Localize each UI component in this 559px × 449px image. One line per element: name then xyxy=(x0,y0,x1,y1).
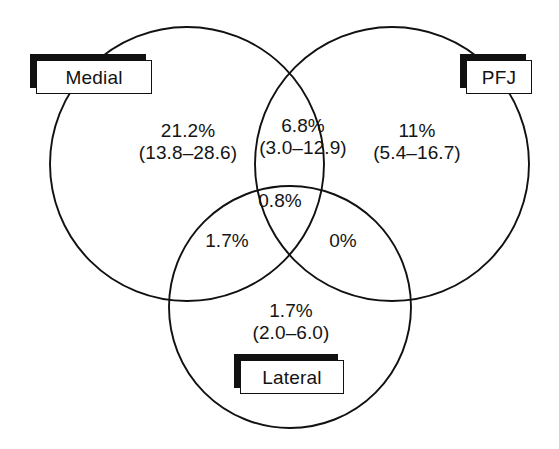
set-label-pfj-text: PFJ xyxy=(482,68,516,87)
region-label-medial-pfj: 6.8% (3.0–12.9) xyxy=(248,115,358,159)
venn-diagram-figure: 21.2% (13.8–28.6) 6.8% (3.0–12.9) 11% (5… xyxy=(0,0,559,449)
region-ci-medial-pfj: (3.0–12.9) xyxy=(248,137,358,159)
region-label-pfj-lateral: 0% xyxy=(318,230,368,252)
set-label-medial: Medial xyxy=(36,60,152,94)
region-ci-lateral-only: (2.0–6.0) xyxy=(228,322,354,344)
region-label-lateral-only: 1.7% (2.0–6.0) xyxy=(228,300,354,344)
region-percent-medial-pfj: 6.8% xyxy=(248,115,358,137)
region-percent-all-three: 0.8% xyxy=(249,190,311,212)
region-percent-medial-lateral: 1.7% xyxy=(196,230,258,252)
region-label-all-three: 0.8% xyxy=(249,190,311,212)
set-label-lateral-text: Lateral xyxy=(262,368,322,387)
region-label-pfj-only: 11% (5.4–16.7) xyxy=(352,120,482,164)
region-percent-medial-only: 21.2% xyxy=(118,120,258,142)
region-ci-medial-only: (13.8–28.6) xyxy=(118,142,258,164)
region-ci-pfj-only: (5.4–16.7) xyxy=(352,142,482,164)
region-percent-lateral-only: 1.7% xyxy=(228,300,354,322)
region-percent-pfj-lateral: 0% xyxy=(318,230,368,252)
region-label-medial-only: 21.2% (13.8–28.6) xyxy=(118,120,258,164)
region-percent-pfj-only: 11% xyxy=(352,120,482,142)
set-label-medial-text: Medial xyxy=(65,68,122,87)
set-label-lateral: Lateral xyxy=(240,360,344,394)
region-label-medial-lateral: 1.7% xyxy=(196,230,258,252)
set-label-pfj: PFJ xyxy=(466,60,532,94)
